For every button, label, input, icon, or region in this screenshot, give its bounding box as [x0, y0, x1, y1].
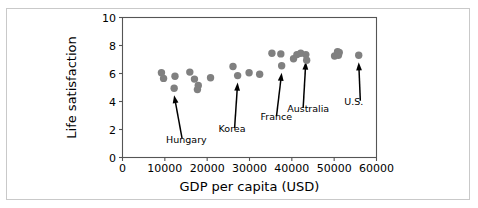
annotation-arrow-head: [356, 62, 362, 70]
x-tick-label: 50000: [317, 162, 352, 175]
x-axis-title: GDP per capita (USD): [180, 179, 320, 194]
y-axis-title: Life satisfaction: [64, 36, 79, 138]
x-tick-label: 0: [119, 162, 126, 175]
data-point: [256, 71, 263, 78]
x-tick-label: 10000: [147, 162, 182, 175]
annotation-arrow-head: [173, 95, 179, 103]
data-point: [268, 50, 275, 57]
data-point: [355, 52, 362, 59]
data-point: [278, 62, 285, 69]
data-point: [191, 75, 198, 82]
x-tick-label: 30000: [232, 162, 267, 175]
figure-root: 01000020000300004000050000600000246810GD…: [0, 0, 478, 208]
data-point: [229, 63, 236, 70]
y-tick-label: 8: [109, 40, 116, 53]
y-tick-label: 2: [109, 124, 116, 137]
data-point: [186, 68, 193, 75]
scatter-plot: 01000020000300004000050000600000246810GD…: [0, 0, 478, 208]
annotation-arrow-shaft: [303, 68, 305, 108]
annotation-arrow-head: [278, 73, 284, 81]
x-tick-label: 60000: [359, 162, 394, 175]
data-point: [207, 74, 214, 81]
y-tick-label: 10: [102, 12, 116, 25]
data-point: [194, 86, 201, 93]
data-point: [303, 57, 310, 64]
y-tick-label: 4: [109, 96, 116, 109]
annotation-label-us: U.S.: [344, 96, 363, 107]
annotation-arrow-head: [234, 83, 240, 91]
annotation-label-korea: Korea: [219, 123, 246, 134]
y-tick-label: 0: [109, 152, 116, 165]
data-point: [234, 72, 241, 79]
plot-frame: [123, 18, 377, 158]
annotation-label-australia: Australia: [287, 103, 329, 114]
data-point: [160, 75, 167, 82]
data-point: [277, 50, 284, 57]
y-tick-label: 6: [109, 68, 116, 81]
data-point: [171, 73, 178, 80]
x-tick-label: 20000: [190, 162, 225, 175]
x-tick-label: 40000: [274, 162, 309, 175]
data-point: [335, 52, 342, 59]
data-point: [170, 85, 177, 92]
annotation-label-hungary: Hungary: [166, 134, 207, 145]
data-point: [245, 69, 252, 76]
